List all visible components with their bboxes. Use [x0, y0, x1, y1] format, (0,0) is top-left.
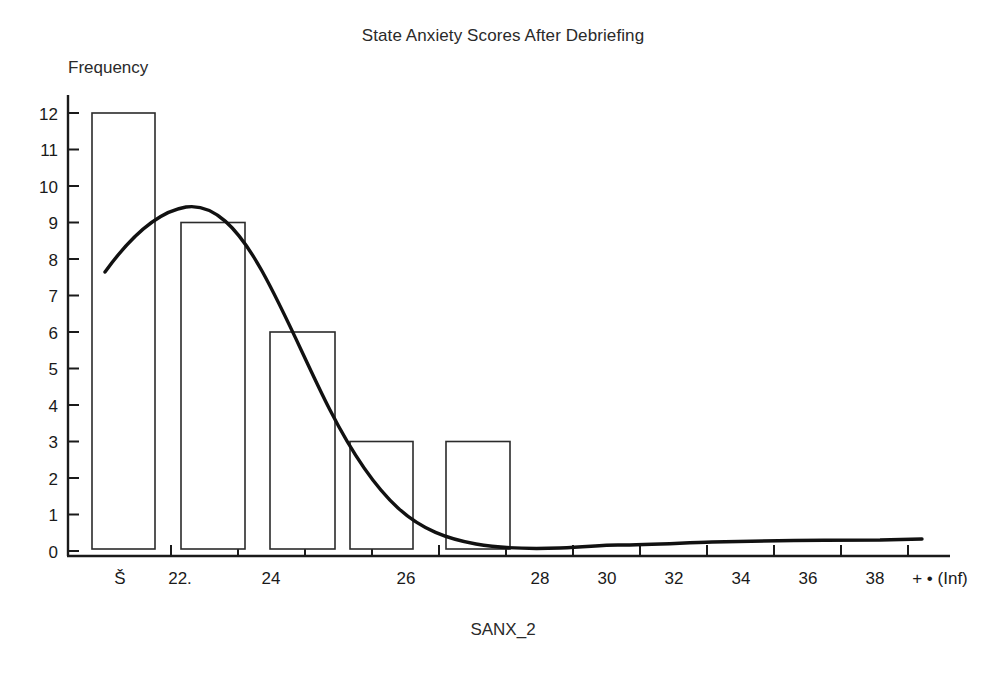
y-tick-label: 2	[49, 470, 58, 489]
histogram-figure: State Anxiety Scores After Debriefing Fr…	[0, 0, 1006, 680]
bar	[92, 113, 155, 549]
y-axis-ticks	[68, 113, 79, 551]
y-tick-label: 0	[49, 543, 58, 562]
x-axis-title: SANX_2	[0, 620, 1006, 640]
y-tick-label: 8	[49, 251, 58, 270]
histogram-bars	[92, 113, 510, 549]
x-tick-label: 38	[866, 569, 885, 588]
x-tick-label: 30	[598, 569, 617, 588]
y-axis-tick-labels: 0 1 2 3 4 5 6 7 8 9 10 11 12	[39, 105, 58, 562]
x-tick-label: 36	[799, 569, 818, 588]
y-tick-label: 4	[49, 397, 58, 416]
y-tick-label: 6	[49, 324, 58, 343]
bar	[270, 332, 335, 549]
y-tick-label: 3	[49, 433, 58, 452]
bar	[446, 442, 510, 550]
y-tick-label: 11	[40, 141, 58, 160]
bar	[350, 442, 413, 550]
y-tick-label: 5	[49, 360, 58, 379]
y-tick-label: 7	[49, 287, 58, 306]
x-tick-label: 32	[665, 569, 684, 588]
x-axis-tick-labels: Š 22. 24 26 28 30 32 34 36 38 + • (Inf)	[114, 569, 967, 588]
x-tick-label: Š	[114, 569, 125, 588]
x-tick-label: 28	[531, 569, 550, 588]
x-tick-label: 26	[397, 569, 416, 588]
y-tick-label: 1	[49, 506, 58, 525]
plot-area: 0 1 2 3 4 5 6 7 8 9 10 11 12	[0, 0, 1006, 680]
y-tick-label: 10	[39, 178, 58, 197]
x-tick-label: + • (Inf)	[912, 569, 968, 588]
y-tick-label: 9	[49, 214, 58, 233]
x-tick-label: 34	[732, 569, 751, 588]
y-tick-label: 12	[39, 105, 58, 124]
x-tick-label: 24	[262, 569, 281, 588]
x-tick-label: 22.	[168, 569, 192, 588]
bar	[181, 223, 245, 550]
